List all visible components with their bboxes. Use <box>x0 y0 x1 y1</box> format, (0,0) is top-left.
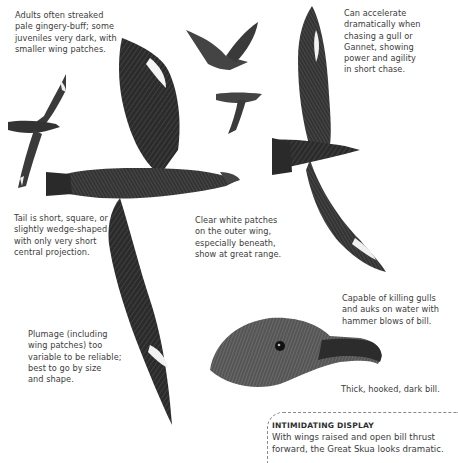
annotation-line: Tail is short, square, or <box>14 213 108 224</box>
annotation-line: hammer blows of bill. <box>342 316 439 327</box>
skua-head-illustration <box>210 318 382 387</box>
annotation-line: central projection. <box>14 247 108 258</box>
annotation-line: Can accelerate <box>344 8 421 19</box>
callout-line: forward, the Great Skua looks dramatic. <box>272 443 444 455</box>
annotation-line: Capable of killing gulls <box>342 293 439 304</box>
annotation-line: show at great range. <box>195 249 281 260</box>
annotation-line: Clear white patches <box>195 215 281 226</box>
annotation-line: in short chase. <box>344 64 421 75</box>
annotation-white-patches: Clear white patches on the outer wing, e… <box>195 215 281 260</box>
annotation-line: Gannet, showing <box>344 42 421 53</box>
top-small-skua-illustration-2 <box>216 93 262 135</box>
annotation-line: slightly wedge-shaped <box>14 224 108 235</box>
annotation-line: juveniles very dark, with <box>15 33 117 44</box>
annotation-line: and auks on water with <box>342 304 439 315</box>
callout-line: With wings raised and open bill thrust <box>272 431 444 443</box>
left-small-skua-illustration <box>8 74 66 188</box>
annotation-line: especially beneath, <box>195 238 281 249</box>
annotation-line: smaller wing patches. <box>15 44 117 55</box>
callout-body: With wings raised and open bill thrust f… <box>272 431 444 455</box>
annotation-line: power and agility <box>344 53 421 64</box>
top-small-skua-illustration-1 <box>186 22 258 70</box>
callout-title: INTIMIDATING DISPLAY <box>272 421 374 430</box>
annotation-line: variable to be reliable; <box>28 352 122 363</box>
annotation-bill: Thick, hooked, dark bill. <box>341 384 440 395</box>
annotation-adult-plumage: Adults often streaked pale gingery-buff;… <box>15 10 117 55</box>
annotation-acceleration: Can accelerate dramatically when chasing… <box>344 8 421 76</box>
annotation-line: on the outer wing, <box>195 226 281 237</box>
annotation-line: pale gingery-buff; some <box>15 21 117 32</box>
annotation-line: wing patches) too <box>28 340 122 351</box>
annotation-line: chasing a gull or <box>344 31 421 42</box>
annotation-line: Thick, hooked, dark bill. <box>341 384 440 395</box>
annotation-line: Plumage (including <box>28 329 122 340</box>
annotation-tail: Tail is short, square, or slightly wedge… <box>14 213 108 258</box>
annotation-line: best to go by size <box>28 363 122 374</box>
annotation-line: and shape. <box>28 374 122 385</box>
annotation-killing: Capable of killing gulls and auks on wat… <box>342 293 439 327</box>
annotation-line: with only very short <box>14 236 108 247</box>
annotation-line: Adults often streaked <box>15 10 117 21</box>
annotation-plumage-variability: Plumage (including wing patches) too var… <box>28 329 122 385</box>
annotation-line: dramatically when <box>344 19 421 30</box>
